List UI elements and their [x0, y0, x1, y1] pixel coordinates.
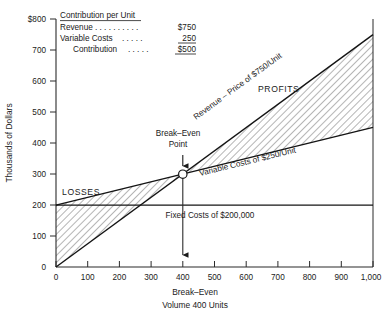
y-tick-200: 200	[32, 201, 46, 210]
x-tick-900: 900	[334, 273, 348, 282]
y-tick-400: 400	[32, 139, 46, 148]
legend-title: Contribution per Unit	[60, 11, 136, 20]
y-tick-600: 600	[32, 77, 46, 86]
y-axis-title: Thousands of Dollars	[4, 103, 14, 182]
y-axis-ticks	[50, 19, 56, 236]
y-tick-labels: $800 700 600 500 400 300 200 100 0	[28, 15, 47, 272]
legend-row1-dots: . . . . .	[122, 34, 142, 43]
x-tick-300: 300	[144, 273, 158, 282]
legend-row0-dots: . . . . . . . . . .	[95, 23, 138, 32]
revenue-line	[56, 35, 373, 267]
y-tick-300: 300	[32, 170, 46, 179]
x-tick-1000: 1,000	[361, 273, 382, 282]
legend-row2-dots: . . . . .	[128, 45, 148, 54]
break-even-chart: $800 700 600 500 400 300 200 100 0 0 100…	[0, 0, 390, 318]
legend-row0-label: Revenue	[60, 23, 93, 32]
x-tick-labels: 0 100 200 300 400 500 600 700 800 900 1,…	[54, 273, 382, 282]
x-tick-600: 600	[239, 273, 253, 282]
legend-row2-label: Contribution	[73, 45, 118, 54]
y-tick-0: 0	[41, 263, 46, 272]
x-axis-ticks	[56, 261, 373, 267]
break-even-callout-line1: Break–Even	[156, 129, 201, 138]
x-tick-400: 400	[176, 273, 190, 282]
y-tick-800: $800	[28, 15, 47, 24]
break-even-callout-line2: Point	[169, 140, 188, 149]
losses-label: LOSSES	[62, 187, 100, 197]
x-tick-0: 0	[54, 273, 59, 282]
break-even-point-marker	[179, 170, 187, 178]
legend-row1-label: Variable Costs	[60, 34, 113, 43]
fixed-costs-line-label: Fixed Costs of $200,000	[166, 211, 255, 220]
x-tick-500: 500	[208, 273, 222, 282]
y-tick-700: 700	[32, 46, 46, 55]
profits-label: PROFITS	[258, 84, 299, 94]
legend-row2-value: $500	[178, 45, 197, 54]
x-tick-100: 100	[81, 273, 95, 282]
y-tick-100: 100	[32, 232, 46, 241]
x-axis-title-line1: Break–Even	[172, 287, 218, 297]
legend-row0-value: $750	[178, 23, 197, 32]
x-tick-800: 800	[303, 273, 317, 282]
legend-row1-value: 250	[182, 34, 196, 43]
chart-canvas: $800 700 600 500 400 300 200 100 0 0 100…	[0, 0, 390, 318]
y-tick-500: 500	[32, 108, 46, 117]
series-lines	[56, 35, 373, 267]
contribution-legend: Contribution per Unit Revenue . . . . . …	[60, 11, 196, 54]
x-tick-200: 200	[113, 273, 127, 282]
x-tick-700: 700	[271, 273, 285, 282]
x-axis-title-line2: Volume 400 Units	[162, 300, 228, 310]
